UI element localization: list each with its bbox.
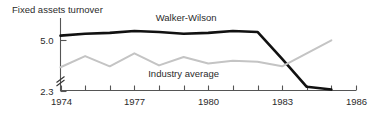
x-axis-tick-labels: 19741977198019831986 xyxy=(51,96,367,107)
x-tick-label-1974: 1974 xyxy=(51,96,72,107)
data-series-group xyxy=(61,31,332,90)
x-tick-label-1980: 1980 xyxy=(198,96,219,107)
chart-title: Fixed assets turnover xyxy=(12,4,103,15)
series-line-industry-average xyxy=(61,40,332,67)
y-tick-label-5.0: 5.0 xyxy=(40,35,53,46)
x-tick-label-1983: 1983 xyxy=(272,96,293,107)
y-axis-tick-labels: 2.35.0 xyxy=(40,35,53,97)
series-annotation-walker-wilson: Walker-Wilson xyxy=(156,12,217,23)
series-annotation-industry-average: Industry average xyxy=(148,68,219,79)
fixed-assets-turnover-line-chart: Fixed assets turnover 2.35.0 19741977198… xyxy=(0,0,383,119)
x-tick-label-1986: 1986 xyxy=(346,96,367,107)
series-annotations: Walker-WilsonIndustry average xyxy=(148,12,219,79)
x-tick-label-1977: 1977 xyxy=(124,96,145,107)
y-axis: 2.35.0 xyxy=(40,18,66,97)
chart-container: Fixed assets turnover 2.35.0 19741977198… xyxy=(0,0,383,119)
